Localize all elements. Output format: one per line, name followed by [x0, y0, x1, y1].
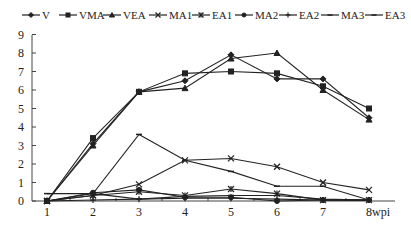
- y-tick-label: 1: [18, 176, 24, 190]
- circle-marker-icon: [137, 187, 142, 192]
- x-tick-label: 2: [90, 205, 96, 219]
- chart-legend: VVMAVEAMA1EA1MA2EA2MA3EA3: [22, 9, 406, 21]
- plus-marker-icon: [286, 13, 291, 18]
- legend-item: MA3: [321, 9, 365, 21]
- y-tick-label: 7: [18, 65, 24, 79]
- legend-item: VEA: [103, 9, 146, 21]
- y-tick-label: 5: [18, 102, 24, 116]
- legend-item: VMA: [59, 9, 105, 21]
- legend-label: MA1: [169, 9, 192, 21]
- x-tick-label: 6: [274, 205, 280, 219]
- y-tick-label: 0: [18, 194, 24, 208]
- square-marker-icon: [229, 69, 234, 74]
- y-tick-label: 4: [18, 120, 24, 134]
- legend-item: EA3: [365, 9, 406, 21]
- x-tick-label: 3: [136, 205, 142, 219]
- y-tick-label: 8: [18, 46, 24, 60]
- x-tick-label: 5: [228, 205, 234, 219]
- y-tick-label: 2: [18, 157, 24, 171]
- chart-series: [44, 50, 372, 204]
- legend-label: VMA: [79, 9, 105, 21]
- legend-item: EA1: [192, 9, 232, 21]
- y-tick-label: 9: [18, 28, 24, 42]
- series-line: [47, 53, 369, 201]
- legend-item: MA1: [149, 9, 192, 21]
- series-v: [44, 52, 372, 204]
- x-tick-label: 4: [182, 205, 188, 219]
- legend-label: EA1: [212, 9, 232, 21]
- x-tick-label: 7: [320, 205, 326, 219]
- diamond-marker-icon: [29, 13, 34, 18]
- diamond-marker-icon: [182, 78, 188, 84]
- x-tick-label: 1: [44, 205, 50, 219]
- legend-label: VEA: [123, 9, 146, 21]
- x-tick-label: 8wpi: [366, 205, 391, 219]
- legend-label: V: [42, 9, 50, 21]
- square-marker-icon: [66, 13, 70, 17]
- legend-item: EA2: [279, 9, 319, 21]
- legend-item: MA2: [235, 9, 278, 21]
- chart-axes: 012345678912345678wpi: [18, 28, 395, 220]
- square-marker-icon: [367, 106, 372, 111]
- line-chart: VVMAVEAMA1EA1MA2EA2MA3EA3 01234567891234…: [0, 0, 411, 232]
- legend-item: V: [22, 9, 50, 21]
- series-line: [47, 55, 369, 201]
- square-marker-icon: [275, 71, 280, 76]
- triangle-marker-icon: [110, 13, 115, 18]
- legend-label: MA3: [341, 9, 365, 21]
- circle-marker-icon: [242, 13, 246, 17]
- y-tick-label: 3: [18, 139, 24, 153]
- square-marker-icon: [183, 71, 188, 76]
- series-vea: [44, 50, 372, 204]
- square-marker-icon: [91, 136, 96, 141]
- legend-label: EA2: [299, 9, 319, 21]
- y-tick-label: 6: [18, 83, 24, 97]
- legend-label: MA2: [255, 9, 278, 21]
- legend-label: EA3: [385, 9, 406, 21]
- diamond-marker-icon: [274, 76, 280, 82]
